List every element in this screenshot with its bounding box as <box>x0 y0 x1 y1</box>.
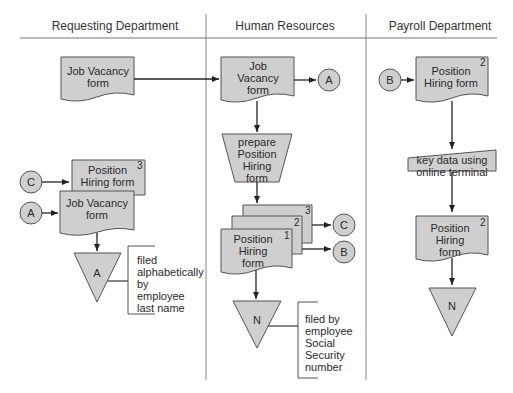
copy-number: 2 <box>480 57 486 68</box>
connector-b-label: B <box>383 74 397 86</box>
manual-input-label: key data using online terminal <box>410 154 494 178</box>
position-hiring-form-doc: Position Hiring form <box>80 164 135 188</box>
file-label-n: N <box>250 314 264 326</box>
file-note: filed alphabetically by employee last na… <box>137 254 199 314</box>
connector-c-label: C <box>24 176 38 188</box>
lane-title-requesting: Requesting Department <box>40 19 190 33</box>
manual-operation-label: prepare Position Hiring form <box>232 136 282 184</box>
connector-a-label: A <box>24 207 38 219</box>
connector-c-label: C <box>337 219 351 231</box>
connector-b-label: B <box>337 246 351 258</box>
copy-number-1: 1 <box>284 230 290 241</box>
copy-number: 3 <box>137 160 143 171</box>
position-hiring-form-doc: Position Hiring form <box>425 222 475 258</box>
file-triangle-shape <box>429 288 476 336</box>
file-label-a: A <box>90 267 104 279</box>
copy-number-2: 2 <box>294 217 300 228</box>
file-note: filed by employee Social Security number <box>305 313 363 373</box>
job-vacancy-form-doc: Job Vacancy form <box>63 65 133 89</box>
copy-number: 2 <box>480 217 486 228</box>
position-hiring-form-doc: Position Hiring form <box>228 233 278 269</box>
connector-a-label: A <box>322 74 336 86</box>
position-hiring-form-doc: Position Hiring form <box>420 65 482 89</box>
lane-title-payroll: Payroll Department <box>370 19 510 33</box>
file-label-n: N <box>445 300 459 312</box>
copy-number-3: 3 <box>305 205 311 216</box>
job-vacancy-form-doc: Job Vacancy form <box>62 197 132 221</box>
lane-title-hr: Human Resources <box>215 19 355 33</box>
job-vacancy-form-doc: Job Vacancy form <box>232 60 284 96</box>
